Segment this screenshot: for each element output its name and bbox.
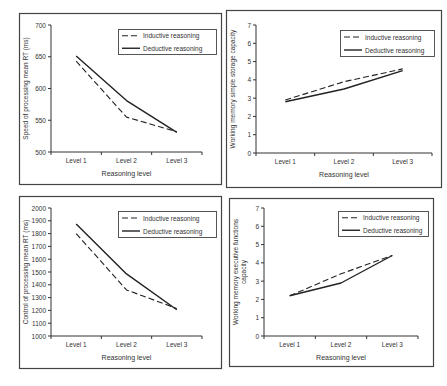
x-tick-label: Level 3 (382, 341, 403, 348)
y-tick-label: 600 (35, 85, 46, 92)
y-tick-label: 5 (255, 241, 259, 248)
x-axis-label: Reasoning level (319, 171, 369, 179)
y-tick-label: 4 (247, 76, 251, 83)
legend: Inductive reasoningDeductive reasoning (119, 212, 217, 238)
y-tick-label: 0 (255, 333, 259, 340)
y-axis-label: capacity (240, 259, 248, 284)
chart-panel-storage: 01234567Level 1Level 2Level 3Reasoning l… (227, 11, 442, 188)
legend-label: Inductive reasoning (143, 215, 200, 223)
legend: Inductive reasoningDeductive reasoning (341, 31, 435, 57)
y-tick-label: 4 (255, 259, 259, 266)
y-tick-label: 1600 (32, 256, 47, 263)
legend-label: Inductive reasoning (363, 214, 420, 222)
series-inductive-reasoning (290, 256, 393, 296)
legend-label: Deductive reasoning (143, 45, 203, 53)
y-tick-label: 650 (35, 53, 46, 60)
y-tick-label: 7 (255, 205, 259, 212)
x-axis-label: Reasoning level (102, 170, 152, 178)
figure-grid: 500550600650700Level 1Level 2Level 3Reas… (0, 0, 447, 386)
y-tick-label: 1100 (32, 320, 46, 327)
chart-panel-executive: 01234567Level 1Level 2Level 3Reasoning l… (230, 199, 434, 367)
y-tick-label: 1000 (32, 333, 47, 340)
series-deductive-reasoning (285, 71, 402, 102)
y-tick-label: 500 (35, 149, 46, 156)
x-axis-label: Reasoning level (102, 354, 152, 362)
series-deductive-reasoning (76, 56, 177, 132)
x-tick-label: Level 2 (331, 341, 352, 348)
y-tick-label: 1300 (32, 294, 47, 301)
y-tick-label: 1500 (32, 269, 47, 276)
y-tick-label: 1700 (32, 243, 47, 250)
y-tick-label: 1400 (32, 281, 47, 288)
legend-label: Inductive reasoning (365, 34, 422, 42)
chart-panel-speed: 500550600650700Level 1Level 2Level 3Reas… (20, 14, 222, 185)
x-tick-label: Level 1 (66, 157, 87, 164)
y-tick-label: 6 (247, 40, 251, 47)
y-tick-label: 2 (255, 296, 259, 303)
y-tick-label: 700 (35, 22, 46, 29)
x-tick-label: Level 3 (392, 158, 413, 165)
y-tick-label: 2 (247, 113, 251, 120)
x-tick-label: Level 2 (116, 157, 137, 164)
series-inductive-reasoning (76, 61, 177, 132)
y-tick-label: 6 (255, 223, 259, 230)
y-tick-label: 0 (247, 150, 251, 157)
legend: Inductive reasoningDeductive reasoning (339, 212, 429, 237)
y-tick-label: 1900 (32, 217, 47, 224)
y-tick-label: 2000 (32, 205, 47, 212)
x-axis-label: Reasoning level (316, 354, 366, 362)
y-axis-label: Working memory simple storage capacity (229, 29, 237, 148)
x-tick-label: Level 2 (116, 341, 137, 348)
x-tick-label: Level 1 (66, 341, 87, 348)
y-axis-label: Working memory executive functions (232, 218, 240, 325)
y-tick-label: 1 (255, 314, 259, 321)
legend: Inductive reasoningDeductive reasoning (119, 30, 217, 55)
y-tick-label: 7 (247, 22, 251, 29)
y-tick-label: 1800 (32, 230, 47, 237)
x-tick-label: Level 1 (279, 341, 300, 348)
y-tick-label: 1 (247, 131, 251, 138)
series-inductive-reasoning (285, 69, 402, 100)
y-tick-label: 3 (255, 278, 259, 285)
chart-panel-control: 1000110012001300140015001600170018001900… (20, 197, 222, 369)
y-axis-label: Control of processing mean RT (ms) (22, 220, 30, 325)
x-tick-label: Level 3 (166, 157, 187, 164)
series-inductive-reasoning (76, 234, 177, 309)
y-tick-label: 3 (247, 95, 251, 102)
legend-label: Deductive reasoning (363, 227, 423, 235)
y-tick-label: 1200 (32, 307, 47, 314)
legend-label: Inductive reasoning (143, 32, 200, 40)
figure-canvas: 500550600650700Level 1Level 2Level 3Reas… (0, 0, 447, 386)
y-axis-label: Speed of processing mean RT (ms) (22, 37, 30, 139)
legend-label: Deductive reasoning (365, 47, 425, 55)
legend-label: Deductive reasoning (143, 228, 203, 236)
x-tick-label: Level 3 (166, 341, 187, 348)
y-tick-label: 550 (35, 117, 46, 124)
y-tick-label: 5 (247, 58, 251, 65)
x-tick-label: Level 1 (275, 158, 296, 165)
x-tick-label: Level 2 (334, 158, 355, 165)
